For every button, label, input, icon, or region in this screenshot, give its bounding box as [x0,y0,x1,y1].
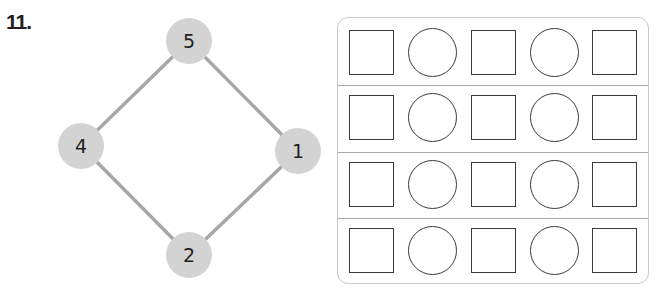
answer-square-box[interactable] [349,162,394,207]
number-diamond-diagram: 5 4 1 2 [0,0,330,295]
answer-square-box[interactable] [471,228,516,273]
answer-circle-box[interactable] [530,226,579,275]
answer-square-box[interactable] [592,162,637,207]
diagram-edges [81,41,298,255]
node-right: 1 [275,128,321,174]
answer-row-1 [338,18,648,84]
answer-circle-box[interactable] [408,160,457,209]
answer-square-box[interactable] [471,162,516,207]
answer-row-3 [338,152,648,219]
answer-circle-box[interactable] [408,226,457,275]
edge-top-right [189,41,298,151]
answer-row-2 [338,85,648,152]
answer-square-box[interactable] [349,228,394,273]
node-right-label: 1 [292,140,304,162]
answer-square-box[interactable] [592,228,637,273]
answer-square-box[interactable] [471,95,516,140]
answer-square-box[interactable] [349,30,394,75]
node-bottom-label: 2 [183,244,195,266]
answer-circle-box[interactable] [408,28,457,77]
answer-circle-box[interactable] [530,93,579,142]
node-top: 5 [166,18,212,64]
answer-circle-box[interactable] [530,28,579,77]
answer-square-box[interactable] [592,30,637,75]
answer-row-4 [338,218,648,284]
node-top-label: 5 [183,30,195,52]
answer-circle-box[interactable] [408,93,457,142]
node-bottom: 2 [166,232,212,278]
answer-square-box[interactable] [592,95,637,140]
answer-grid [337,17,649,284]
node-left: 4 [58,123,104,169]
answer-square-box[interactable] [471,30,516,75]
node-left-label: 4 [75,135,87,157]
edge-left-bottom [81,146,189,255]
answer-circle-box[interactable] [530,160,579,209]
answer-square-box[interactable] [349,95,394,140]
